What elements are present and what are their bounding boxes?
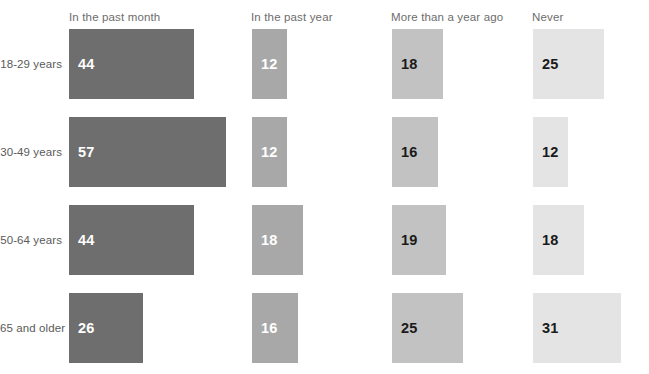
column-header-more-than-a-year-ago: More than a year ago [391, 10, 503, 24]
column-header-never: Never [532, 10, 563, 24]
cell-value: 18 [392, 57, 418, 72]
cell-50-64-years-in-the-past-year: 18 [252, 205, 303, 275]
cell-value: 19 [392, 233, 418, 248]
cell-value: 12 [252, 145, 278, 160]
cell-65-and-older-never: 31 [533, 293, 621, 363]
cell-value: 12 [252, 57, 278, 72]
cell-30-49-years-more-than-a-year-ago: 16 [392, 117, 438, 187]
cell-30-49-years-in-the-past-month: 57 [69, 117, 226, 187]
row-label-30-49-years: 30-49 years [0, 145, 62, 159]
cell-30-49-years-never: 12 [533, 117, 568, 187]
cell-value: 57 [69, 145, 95, 160]
cell-value: 44 [69, 233, 95, 248]
cell-value: 16 [392, 145, 418, 160]
cell-value: 16 [252, 321, 278, 336]
cell-value: 44 [69, 57, 95, 72]
matrix-chart: In the past month In the past year More … [0, 0, 649, 374]
cell-65-and-older-in-the-past-year: 16 [252, 293, 298, 363]
cell-value: 12 [533, 145, 559, 160]
cell-value: 31 [533, 321, 559, 336]
row-label-50-64-years: 50-64 years [0, 233, 62, 247]
column-header-in-the-past-month: In the past month [69, 10, 160, 24]
cell-50-64-years-more-than-a-year-ago: 19 [392, 205, 446, 275]
cell-value: 18 [533, 233, 559, 248]
cell-50-64-years-in-the-past-month: 44 [69, 205, 194, 275]
cell-18-29-years-in-the-past-month: 44 [69, 29, 194, 99]
cell-50-64-years-never: 18 [533, 205, 584, 275]
row-label-18-29-years: 18-29 years [0, 57, 62, 71]
column-header-in-the-past-year: In the past year [251, 10, 333, 24]
cell-value: 25 [392, 321, 418, 336]
cell-value: 25 [533, 57, 559, 72]
cell-value: 26 [69, 321, 95, 336]
cell-65-and-older-more-than-a-year-ago: 25 [392, 293, 463, 363]
cell-65-and-older-in-the-past-month: 26 [69, 293, 143, 363]
cell-18-29-years-more-than-a-year-ago: 18 [392, 29, 443, 99]
row-label-65-and-older: 65 and older [0, 321, 62, 335]
cell-18-29-years-in-the-past-year: 12 [252, 29, 287, 99]
cell-18-29-years-never: 25 [533, 29, 604, 99]
cell-30-49-years-in-the-past-year: 12 [252, 117, 287, 187]
cell-value: 18 [252, 233, 278, 248]
